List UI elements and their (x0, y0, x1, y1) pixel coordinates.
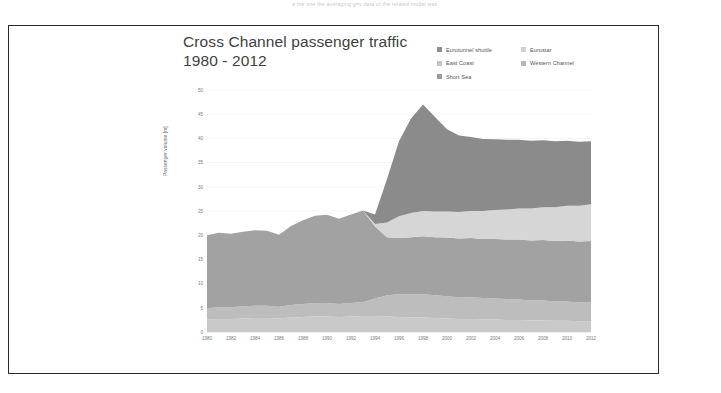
x-tick-label: 1996 (394, 336, 405, 341)
x-tick-label: 1984 (250, 336, 261, 341)
y-tick-label: 10 (198, 281, 204, 286)
legend-item-label: East Coast (446, 60, 474, 66)
x-tick-label: 2000 (442, 336, 453, 341)
screenshot-root: a the one the averaging g=v data of the … (0, 0, 721, 393)
clipped-page-text: a the one the averaging g=v data of the … (0, 0, 721, 18)
y-tick-label: 35 (198, 160, 204, 165)
legend-item: Eurotunnel shuttle (437, 44, 521, 55)
legend-item: Western Channel (521, 58, 605, 69)
x-tick-label: 1994 (370, 336, 381, 341)
x-tick-label: 1992 (346, 336, 357, 341)
x-tick-label: 1986 (274, 336, 285, 341)
legend-swatch-icon (437, 47, 442, 52)
y-tick-label: 40 (198, 136, 204, 141)
y-tick-label: 0 (200, 330, 203, 335)
x-tick-label: 2002 (466, 336, 477, 341)
chart-title: Cross Channel passenger traffic 1980 - 2… (183, 32, 433, 70)
legend-item: Eurostar (521, 44, 605, 55)
x-tick-label: 1990 (322, 336, 333, 341)
x-tick-label: 2008 (538, 336, 549, 341)
y-tick-label: 45 (198, 112, 204, 117)
y-tick-label: 50 (198, 88, 204, 93)
legend-item-label: Eurotunnel shuttle (446, 47, 492, 53)
x-tick-label: 1988 (298, 336, 309, 341)
y-tick-label: 30 (198, 185, 204, 190)
legend-swatch-icon (521, 47, 526, 52)
x-tick-label: 1980 (202, 336, 213, 341)
chart-legend: Eurotunnel shuttleEurostarEast CoastWest… (437, 44, 605, 85)
legend-swatch-icon (437, 61, 442, 66)
clipped-text-fragment: a the one the averaging g=v data of the … (292, 1, 437, 7)
plot-area: 0510152025303540455019801982198419861988… (183, 86, 595, 348)
y-tick-label: 25 (198, 209, 204, 214)
x-tick-label: 2004 (490, 336, 501, 341)
legend-swatch-icon (521, 61, 526, 66)
x-tick-label: 2010 (562, 336, 573, 341)
legend-item: Short Sea (437, 71, 521, 82)
stacked-area-chart: 0510152025303540455019801982198419861988… (183, 86, 595, 348)
x-tick-label: 1998 (418, 336, 429, 341)
chart-title-line1: Cross Channel passenger traffic (183, 33, 407, 50)
y-tick-label: 20 (198, 233, 204, 238)
legend-swatch-icon (437, 74, 442, 79)
legend-item-label: Eurostar (530, 47, 552, 53)
chart-title-line2: 1980 - 2012 (183, 51, 433, 70)
x-tick-label: 2012 (586, 336, 597, 341)
y-tick-label: 5 (200, 306, 203, 311)
y-axis-label: Passenger volume [m] (163, 126, 168, 176)
x-tick-label: 2006 (514, 336, 525, 341)
legend-item: East Coast (437, 58, 521, 69)
x-tick-label: 1982 (226, 336, 237, 341)
legend-item-label: Short Sea (446, 74, 471, 80)
y-tick-label: 15 (198, 257, 204, 262)
legend-item-label: Western Channel (530, 60, 574, 66)
